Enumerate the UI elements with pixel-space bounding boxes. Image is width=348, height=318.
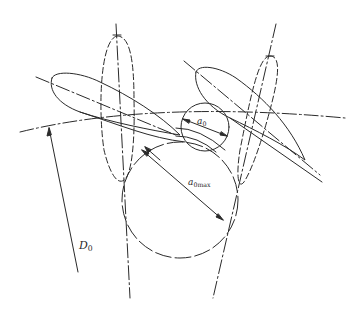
label-D0-sub: 0	[88, 244, 93, 253]
diameter-arrowhead	[47, 128, 51, 136]
diameter-arc	[20, 112, 345, 132]
label-a0max-sub: 0max	[193, 181, 210, 188]
label-D0-base: D	[79, 239, 88, 252]
diameter-leader-line	[49, 128, 78, 272]
label-a0: a0	[197, 117, 206, 127]
label-D0: D0	[79, 240, 93, 253]
left-blade-axis	[116, 24, 130, 298]
left-blade-solid	[51, 73, 180, 135]
label-a0max: a0max	[188, 178, 211, 188]
diagram-canvas: a0 a0max D0	[0, 0, 348, 318]
a0-arrowhead-right	[220, 132, 227, 136]
right-blade-trailing-line	[230, 118, 322, 182]
inner-arc-1	[176, 128, 225, 150]
throat-circle-a0max	[122, 142, 238, 258]
label-a0-sub: 0	[202, 120, 206, 127]
a0-arrowhead-left	[183, 119, 190, 123]
a0max-arrowhead-bottom	[216, 214, 223, 220]
cascade-diagram	[0, 0, 348, 318]
